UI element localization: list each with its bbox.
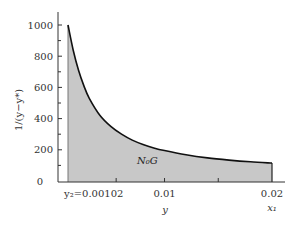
chart: 02004006008001000y₂=0.001020.010.02yx₁1/… [0,0,297,226]
y-tick-label: 0 [37,176,43,187]
x-tick-label: 0.02 [261,188,283,199]
y-tick-label: 600 [34,82,53,93]
shaded-area-label: N₀G [136,155,158,166]
x-axis-title: y [161,204,168,215]
y-tick-label: 400 [34,113,53,124]
shaded-area [68,25,272,182]
y-axis-title: 1/(y−y*) [13,89,24,131]
plot-area [68,25,272,182]
labels: 02004006008001000y₂=0.001020.010.02yx₁1/… [13,20,283,216]
x-tick-label: 0.01 [153,188,175,199]
y-tick-label: 800 [34,51,53,62]
y-tick-label: 200 [34,144,53,155]
y-tick-label: 1000 [28,20,53,31]
x-tick-label: y₂=0.00102 [63,188,123,199]
x-end-label: x₁ [267,202,277,213]
